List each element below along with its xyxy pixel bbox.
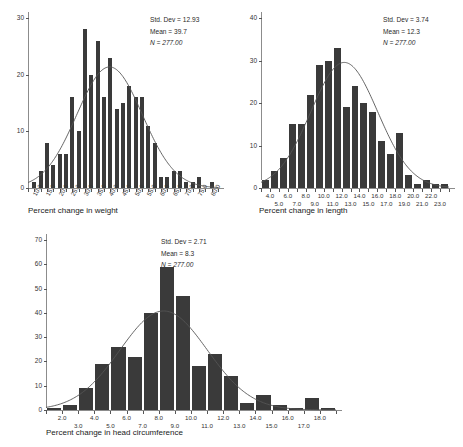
histogram-bar (315, 65, 324, 188)
histogram-bar (431, 184, 440, 188)
x-tick-label: 8.0 (298, 193, 314, 199)
y-tick-mark (259, 103, 262, 104)
x-tick-label: 4.0 (262, 193, 278, 199)
y-tick-label: 20 (4, 72, 24, 79)
histogram-panel-weight: Std. Dev = 12.93 Mean = 39.7 N = 277.00 … (0, 0, 232, 225)
histogram-bar (239, 403, 255, 410)
x-tick-mark (46, 411, 47, 414)
y-axis-line (261, 12, 262, 188)
x-axis-title-head: Percent change in head circumference (46, 428, 183, 437)
y-tick-label: 20 (237, 100, 257, 107)
x-tick-label: 15.0 (360, 201, 376, 207)
histogram-panel-head: Std. Dev = 2.71 Mean = 8.3 N = 277.00 01… (18, 222, 338, 447)
x-tick-mark (404, 189, 405, 192)
histogram-bar (191, 366, 207, 410)
x-tick-mark (449, 189, 450, 192)
x-tick-label: 13.0 (231, 423, 247, 429)
x-tick-label: 6.0 (280, 193, 296, 199)
y-tick-label: 50 (22, 286, 42, 293)
x-tick-mark (440, 189, 441, 192)
histogram-bar (272, 405, 288, 410)
histogram-bar (351, 86, 360, 188)
y-tick-label: 10 (22, 383, 42, 390)
x-tick-mark (28, 189, 29, 192)
histogram-bar (395, 133, 404, 188)
y-tick-mark (259, 18, 262, 19)
x-tick-label: 18.0 (387, 193, 403, 199)
y-tick-mark (26, 18, 29, 19)
plot-area-weight: 010203010.015.020.025.030.035.040.045.05… (28, 18, 218, 188)
y-axis-line (28, 12, 29, 188)
x-axis-title-weight: Percent change in weight (28, 206, 118, 215)
histogram-bar (386, 154, 395, 188)
x-tick-mark (315, 189, 316, 192)
histogram-bar (377, 141, 386, 188)
y-tick-label: 0 (237, 185, 257, 192)
histogram-bar (143, 313, 159, 410)
x-tick-mark (78, 411, 79, 414)
histogram-bar (413, 184, 422, 188)
histogram-bar (368, 112, 377, 189)
histogram-bar (94, 364, 110, 410)
histogram-bar (62, 405, 78, 410)
x-tick-mark (272, 411, 273, 414)
histogram-bar (110, 347, 126, 410)
y-tick-label: 20 (22, 358, 42, 365)
chart-weight: Std. Dev = 12.93 Mean = 39.7 N = 277.00 … (0, 0, 232, 225)
y-tick-label: 40 (237, 15, 257, 22)
histogram-panel-length: Std. Dev = 3.74 Mean = 12.3 N = 277.00 0… (231, 0, 463, 225)
x-tick-label: 18.0 (312, 415, 328, 421)
x-tick-label: 4.0 (86, 415, 102, 421)
y-tick-label: 40 (22, 310, 42, 317)
histogram-bar (255, 395, 271, 410)
y-tick-mark (44, 264, 47, 265)
x-tick-label: 14.0 (351, 193, 367, 199)
y-tick-label: 30 (4, 15, 24, 22)
y-tick-label: 30 (237, 58, 257, 65)
x-tick-mark (175, 411, 176, 414)
x-tick-mark (143, 411, 144, 414)
chart-head: Std. Dev = 2.71 Mean = 8.3 N = 277.00 01… (18, 222, 338, 447)
x-tick-label: 2.0 (54, 415, 70, 421)
y-tick-mark (44, 313, 47, 314)
y-tick-label: 0 (4, 185, 24, 192)
histogram-bar (288, 124, 297, 188)
histogram-bar (288, 408, 304, 410)
plot-area-head: 0102030405060702.03.04.05.06.07.08.09.01… (46, 240, 336, 410)
x-tick-label: 12.0 (215, 415, 231, 421)
x-tick-label: 6.0 (119, 415, 135, 421)
x-tick-mark (261, 189, 262, 192)
y-tick-mark (26, 75, 29, 76)
histogram-bar (320, 408, 336, 410)
histogram-bar (159, 267, 175, 410)
x-tick-label: 11.0 (199, 423, 215, 429)
y-tick-label: 70 (22, 237, 42, 244)
x-axis-line (261, 188, 455, 189)
x-axis-line (46, 410, 342, 411)
y-tick-mark (44, 361, 47, 362)
y-tick-mark (259, 61, 262, 62)
histogram-bar (175, 296, 191, 410)
x-tick-label: 10.0 (316, 193, 332, 199)
histogram-bar (333, 48, 342, 188)
y-tick-mark (44, 337, 47, 338)
x-tick-label: 8.0 (151, 415, 167, 421)
x-tick-mark (297, 189, 298, 192)
y-tick-label: 0 (22, 407, 42, 414)
histogram-bar (359, 103, 368, 188)
plot-area-length: 0102030404.05.06.07.08.09.010.011.012.01… (261, 18, 449, 188)
x-tick-label: 16.0 (369, 193, 385, 199)
histogram-bar (404, 175, 413, 188)
x-tick-label: 16.0 (280, 415, 296, 421)
histogram-bar (279, 158, 288, 188)
histogram-bar (297, 124, 306, 188)
histogram-bar (223, 376, 239, 410)
x-axis-title-length: Percent change in length (259, 206, 348, 215)
histogram-bar (304, 398, 320, 410)
x-tick-label: 17.0 (378, 201, 394, 207)
histogram-bar (422, 180, 431, 189)
x-tick-label: 17.0 (296, 423, 312, 429)
y-tick-label: 30 (22, 334, 42, 341)
x-tick-mark (239, 411, 240, 414)
y-tick-label: 60 (22, 261, 42, 268)
